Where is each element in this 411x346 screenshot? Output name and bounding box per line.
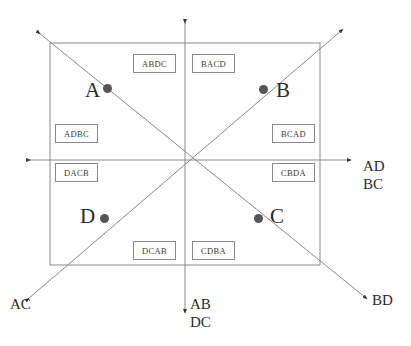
axis-label-bottom-line1: AB <box>190 296 211 314</box>
point-label-b: B <box>276 80 290 101</box>
axis-label-right-line1: AD <box>363 158 385 176</box>
permutation-box-abdc: ABDC <box>133 54 176 73</box>
point-dot-c <box>254 214 263 223</box>
axis-label-bottom: AB DC <box>190 296 211 331</box>
point-dot-a <box>103 84 112 93</box>
permutation-box-dacb: DACB <box>55 163 98 182</box>
axis-label-bottom-line2: DC <box>190 314 211 332</box>
axis-label-right-line2: BC <box>363 176 385 194</box>
permutation-box-cbda: CBDA <box>272 163 315 182</box>
permutation-box-cdba: CDBA <box>192 241 235 260</box>
point-label-c: C <box>270 206 284 227</box>
permutation-box-adbc: ADBC <box>55 124 98 143</box>
permutation-box-bacd: BACD <box>192 54 235 73</box>
diagram-canvas: ABDC BACD ADBC BCAD DACB CBDA DCAB CDBA … <box>0 0 411 346</box>
axis-label-right: AD BC <box>363 158 385 193</box>
point-label-a: A <box>85 80 100 101</box>
axis-label-bottom-right: BD <box>372 292 393 310</box>
permutation-box-bcad: BCAD <box>272 124 315 143</box>
permutation-box-dcab: DCAB <box>133 241 176 260</box>
point-dot-b <box>259 85 268 94</box>
point-dot-d <box>100 214 109 223</box>
point-label-d: D <box>80 206 95 227</box>
axis-label-bottom-left: AC <box>10 296 31 314</box>
